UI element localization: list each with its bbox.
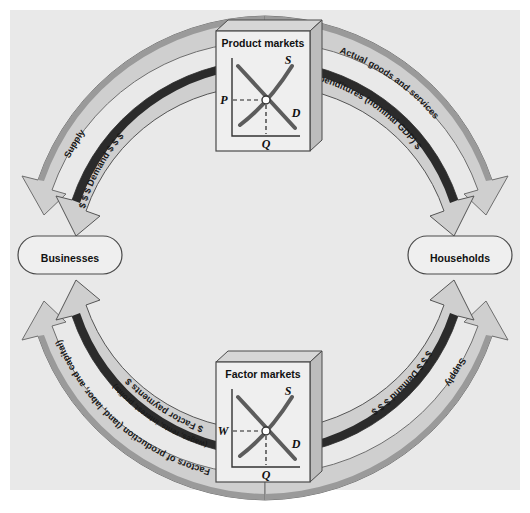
factor-supply-label: S (285, 384, 292, 398)
factor-box-top-face (216, 351, 322, 362)
product-box-top-face (216, 20, 322, 31)
businesses-label: Businesses (41, 252, 100, 264)
factor-demand-label: D (291, 437, 301, 451)
product-quantity-label: Q (262, 137, 271, 151)
factor-quantity-label: Q (262, 468, 271, 482)
factor-wage-label: W (218, 424, 230, 438)
product-price-label: P (220, 93, 228, 107)
product-supply-label: S (285, 53, 292, 67)
circular-flow-diagram: Supply $ $ $ Demand $ $ $ Actual goods a… (0, 0, 530, 513)
node-businesses[interactable]: Businesses (18, 236, 122, 274)
households-label: Households (430, 252, 490, 264)
node-households[interactable]: Households (408, 236, 512, 274)
product-demand-label: D (291, 106, 301, 120)
factor-equilibrium-point (262, 427, 270, 435)
product-markets-box[interactable]: Product markets S D P Q (216, 20, 322, 151)
flow-label-bottom-right-inner: $ $ $ Demand $ $ $ (369, 349, 434, 418)
product-equilibrium-point (262, 96, 270, 104)
figure-root: Supply $ $ $ Demand $ $ $ Actual goods a… (0, 0, 530, 513)
product-markets-title: Product markets (222, 37, 305, 49)
factor-markets-title: Factor markets (225, 368, 300, 380)
factor-markets-box[interactable]: Factor markets S D W Q (216, 351, 322, 482)
product-box-side-face (310, 20, 322, 151)
factor-box-side-face (310, 351, 322, 482)
